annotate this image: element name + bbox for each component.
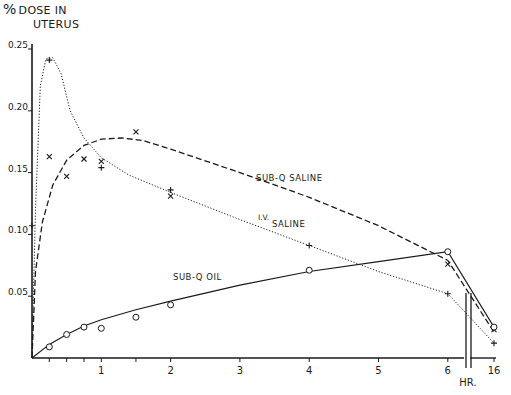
label-iv: I.V. [258,213,269,222]
label-subq-saline: SUB-Q SALINE [256,173,323,183]
y-tick-label: 0.25 [8,40,28,50]
y-tick-label: 0.15 [8,164,28,174]
circle-marker [168,302,174,308]
plus-marker [98,165,104,171]
x-tick-label: 16 [488,365,501,376]
y-tick-label: 0.10 [8,225,28,235]
plus-marker [29,223,35,229]
x-marker [168,194,173,199]
axes: 0.050.100.150.200.2512345616HR. [8,40,500,388]
circle-marker [306,267,312,273]
subq-oil-curve [32,252,494,358]
circle-marker [98,325,104,331]
curves [32,58,494,358]
x-tick-label: 5 [375,365,381,376]
x-tick-label: 6 [445,365,451,376]
iv-saline-curve [32,58,494,352]
plus-marker [306,243,312,249]
circle-marker [81,324,87,330]
label-subq-oil: SUB-Q OIL [173,272,222,282]
x-tick-label: 3 [237,365,243,376]
x-marker [64,174,69,179]
data-markers [29,57,497,350]
circle-marker [46,344,52,350]
plus-marker [491,340,497,346]
y-tick-label: 0.05 [8,287,28,297]
circle-marker [445,249,451,255]
x-marker [445,262,450,267]
x-marker [81,157,86,162]
x-tick-label: 4 [306,365,312,376]
x-marker [133,129,138,134]
x-marker [47,154,52,159]
circle-marker [491,324,497,330]
x-tick-label: 1 [98,365,104,376]
series-labels: SUB-Q SALINEI.V.SALINESUB-Q OIL [173,173,323,282]
label-iv-saline: SALINE [272,219,305,229]
x-tick-label: 2 [167,365,173,376]
circle-marker [133,314,139,320]
x-marker [99,159,104,164]
plus-marker [46,57,52,63]
dose-chart: 0.050.100.150.200.2512345616HR. SUB-Q SA… [0,0,511,395]
y-tick-label: 0.20 [8,102,28,112]
x-axis-unit-label: HR. [459,377,476,388]
circle-marker [64,332,70,338]
